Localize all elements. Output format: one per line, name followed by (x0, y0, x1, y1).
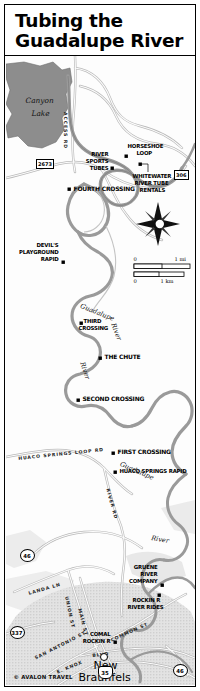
page-title-line2: Guadalupe River (15, 30, 183, 51)
label-devils-2: PLAYGROUND (10, 250, 59, 256)
map-canvas[interactable]: Canyon Lake ACCESS RD HORSESHOE LOOP RIV… (6, 56, 195, 685)
label-river-sports-3: TUBES (72, 166, 109, 172)
label-horseshoe-loop-2: LOOP (137, 151, 153, 157)
road-label-access-rd: ACCESS RD (63, 112, 68, 149)
label-horseshoe-loop-1: HORSESHOE (128, 144, 164, 150)
label-first-crossing: FIRST CROSSING (118, 449, 171, 455)
canyon-lake-label-2: Lake (32, 109, 50, 118)
label-whitewater-1: WHITEWATER (133, 174, 172, 180)
label-rockin-2: RIVER RIDES (128, 605, 164, 611)
label-gruene-2: RIVER (116, 572, 158, 578)
label-devils-1: DEVIL'S (14, 243, 59, 249)
map-page: Canyon Lake ACCESS RD HORSESHOE LOOP RIV… (0, 0, 200, 691)
label-fourth-crossing: FOURTH CROSSING (74, 186, 135, 192)
label-third-1: THIRD (84, 319, 102, 325)
label-second-crossing: SECOND CROSSING (83, 396, 145, 402)
map-credit: © AVALON TRAVEL (14, 674, 73, 680)
label-river-sports-2: SPORTS (72, 159, 109, 165)
label-gruene-1: GRUENE (116, 565, 158, 571)
label-rockin-1: ROCKIN R (133, 598, 161, 604)
title-block: Tubing the Guadalupe River (4, 4, 196, 56)
scale-one-mi: 1 mi (175, 256, 187, 262)
label-third-2: CROSSING (79, 326, 109, 332)
scale-zero-mi: 0 (134, 256, 137, 262)
highway-shield-46-upper[interactable]: 46 (20, 549, 35, 562)
page-title-line1: Tubing the (15, 10, 123, 31)
highway-shield-2673[interactable]: 2673 (36, 159, 55, 169)
highway-shield-i35[interactable]: 35 (98, 666, 113, 679)
scale-zero-km: 0 (134, 278, 137, 284)
label-whitewater-2: RIVER TUBE (135, 181, 169, 187)
canyon-lake-label-1: Canyon (26, 96, 54, 105)
label-the-chute: THE CHUTE (105, 354, 141, 360)
label-gruene-3: COMPANY (112, 579, 158, 585)
highway-shield-46-lower[interactable]: 46 (173, 664, 188, 677)
highway-shield-306[interactable]: 306 (174, 170, 189, 180)
scale-one-km: 1 km (161, 278, 174, 284)
highway-shield-337[interactable]: 337 (10, 626, 25, 639)
label-river-sports-1: RIVER (72, 152, 109, 158)
label-devils-3: RAPID (14, 257, 59, 263)
label-whitewater-3: RENTALS (140, 188, 166, 194)
